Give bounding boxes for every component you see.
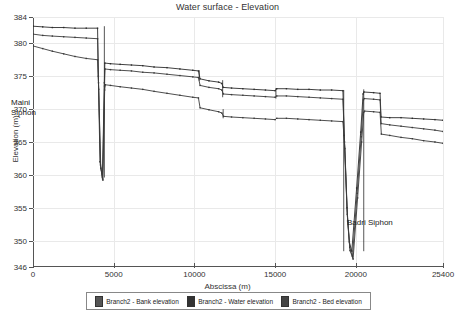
legend-item-0[interactable]: Branch2 - Bank elevation bbox=[95, 296, 179, 307]
data-point bbox=[221, 89, 222, 90]
data-point bbox=[42, 35, 43, 36]
data-point bbox=[198, 70, 199, 71]
data-point bbox=[223, 93, 224, 94]
data-point bbox=[199, 78, 200, 79]
data-point bbox=[119, 86, 120, 87]
y-tick-label: 350 bbox=[14, 236, 27, 245]
data-point bbox=[142, 89, 143, 90]
data-point bbox=[198, 77, 199, 78]
data-point bbox=[74, 56, 75, 57]
legend-item-1[interactable]: Branch2 - Water elevation bbox=[187, 296, 273, 307]
x-tick-label: 25400 bbox=[432, 270, 454, 279]
data-point bbox=[97, 38, 98, 39]
data-point bbox=[320, 97, 321, 98]
data-point bbox=[199, 107, 200, 108]
data-point bbox=[412, 127, 413, 128]
data-point bbox=[423, 128, 424, 129]
data-point bbox=[362, 93, 363, 94]
x-tick-label: 10000 bbox=[183, 270, 205, 279]
data-point bbox=[105, 84, 106, 85]
data-point bbox=[102, 179, 103, 180]
data-point bbox=[104, 62, 105, 63]
legend-item-2[interactable]: Branch2 - Bed elevation bbox=[281, 296, 361, 307]
data-point bbox=[286, 88, 287, 89]
data-point bbox=[400, 117, 401, 118]
data-point bbox=[33, 33, 34, 34]
data-point bbox=[242, 88, 243, 89]
data-point bbox=[192, 97, 193, 98]
chart-title: Water surface - Elevation bbox=[0, 2, 455, 12]
data-point bbox=[208, 87, 209, 88]
data-point bbox=[74, 37, 75, 38]
data-point bbox=[131, 87, 132, 88]
data-point bbox=[331, 120, 332, 121]
data-point bbox=[253, 89, 254, 90]
data-point bbox=[274, 97, 275, 98]
data-point bbox=[153, 66, 154, 67]
data-point bbox=[373, 92, 374, 93]
data-point bbox=[42, 48, 43, 49]
data-point bbox=[63, 27, 64, 28]
data-point bbox=[86, 58, 87, 59]
data-point bbox=[52, 27, 53, 28]
data-point bbox=[198, 97, 199, 98]
x-tick-label: 20000 bbox=[345, 270, 367, 279]
data-point bbox=[265, 96, 266, 97]
data-point bbox=[166, 74, 167, 75]
data-point bbox=[110, 85, 111, 86]
data-point bbox=[308, 119, 309, 120]
y-tick-label: 360 bbox=[14, 170, 27, 179]
data-point bbox=[74, 27, 75, 28]
data-point bbox=[276, 118, 277, 119]
data-point bbox=[344, 148, 345, 149]
data-point bbox=[208, 80, 209, 81]
data-point bbox=[218, 88, 219, 89]
data-point bbox=[223, 116, 224, 117]
data-point bbox=[153, 91, 154, 92]
data-point bbox=[131, 70, 132, 71]
data-point bbox=[308, 97, 309, 98]
data-point bbox=[320, 120, 321, 121]
data-point bbox=[153, 72, 154, 73]
data-point bbox=[253, 95, 254, 96]
data-point bbox=[104, 89, 105, 90]
data-point bbox=[63, 53, 64, 54]
data-point bbox=[231, 87, 232, 88]
data-point bbox=[352, 258, 353, 259]
data-point bbox=[286, 118, 287, 119]
y-tick-label: 355 bbox=[14, 203, 27, 212]
data-point bbox=[98, 89, 99, 90]
data-point bbox=[104, 68, 105, 69]
data-point bbox=[400, 126, 401, 127]
data-point bbox=[357, 197, 358, 198]
data-point bbox=[381, 133, 382, 134]
data-point bbox=[423, 140, 424, 141]
data-point bbox=[297, 118, 298, 119]
data-point bbox=[349, 250, 350, 251]
data-point bbox=[364, 98, 365, 99]
data-point bbox=[192, 70, 193, 71]
data-point bbox=[179, 95, 180, 96]
data-point bbox=[373, 111, 374, 112]
data-point bbox=[389, 117, 390, 118]
data-point bbox=[274, 119, 275, 120]
y-tick-label: 384 bbox=[14, 13, 27, 22]
data-point bbox=[434, 119, 435, 120]
data-point bbox=[119, 70, 120, 71]
data-point bbox=[389, 124, 390, 125]
legend-swatch-icon bbox=[187, 296, 195, 307]
data-point bbox=[179, 68, 180, 69]
data-point bbox=[412, 138, 413, 139]
data-point bbox=[166, 93, 167, 94]
chart-legend: Branch2 - Bank elevationBranch2 - Water … bbox=[86, 292, 371, 310]
y-tick-label: 380 bbox=[14, 39, 27, 48]
x-tick bbox=[443, 263, 444, 268]
data-point bbox=[221, 112, 222, 113]
data-point bbox=[442, 120, 443, 121]
annotation-badri-siphon: Badri Siphon bbox=[347, 218, 393, 228]
data-point bbox=[52, 51, 53, 52]
data-point bbox=[342, 99, 343, 100]
data-point bbox=[363, 99, 364, 100]
data-point bbox=[222, 87, 223, 88]
data-point bbox=[142, 65, 143, 66]
